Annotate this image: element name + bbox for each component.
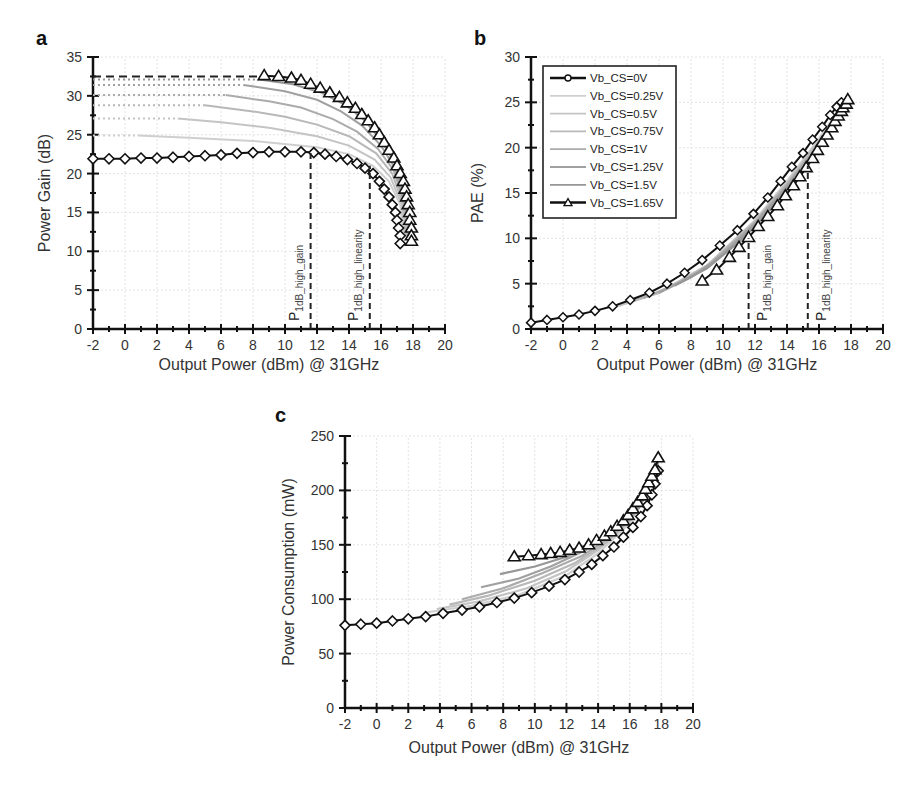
y-tick-label: 20	[504, 140, 520, 156]
y-tick-label: 25	[504, 94, 520, 110]
x-tick-label: 16	[811, 337, 827, 353]
x-tick-label: -2	[87, 337, 100, 353]
series-group	[340, 452, 664, 631]
y-axis-label: Power Consumption (mW)	[280, 478, 297, 666]
x-tick-label: 14	[590, 716, 606, 732]
power-consumption-chart: c-202468101214161820050100150200250Outpu…	[275, 404, 701, 756]
x-axis-label: Output Power (dBm) @ 31GHz	[597, 356, 818, 373]
diamond-marker	[280, 147, 290, 157]
y-tick-label: 35	[66, 49, 82, 65]
diamond-marker	[543, 315, 552, 324]
x-tick-label: 8	[687, 337, 695, 353]
triangle-marker	[842, 94, 854, 104]
y-tick-label: 10	[504, 230, 520, 246]
y-tick-label: 5	[74, 282, 82, 298]
x-tick-label: 6	[217, 337, 225, 353]
y-tick-label: 50	[318, 646, 334, 662]
diamond-marker	[544, 581, 554, 591]
x-tick-label: 4	[436, 716, 444, 732]
x-tick-label: 4	[623, 337, 631, 353]
legend-entry: Vb_CS=0.5V	[590, 108, 657, 120]
legend-entry: Vb_CS=1.5V	[590, 179, 657, 191]
legend-entry: Vb_CS=1.25V	[590, 161, 664, 173]
diamond-marker	[608, 302, 617, 311]
legend-entry: Vb_CS=0V	[590, 72, 648, 84]
y-tick-label: 15	[66, 204, 82, 220]
x-tick-label: -2	[525, 337, 538, 353]
y-tick-label: 150	[311, 537, 335, 553]
x-tick-label: 20	[437, 337, 453, 353]
x-tick-label: 10	[527, 716, 543, 732]
y-tick-label: 5	[512, 276, 520, 292]
diamond-marker	[395, 239, 405, 249]
x-tick-label: 16	[622, 716, 638, 732]
diamond-marker	[560, 575, 570, 585]
diamond-marker	[216, 150, 226, 160]
diamond-marker	[387, 616, 397, 626]
x-tick-label: 2	[153, 337, 161, 353]
x-tick-label: 12	[559, 716, 575, 732]
diamond-marker	[104, 154, 114, 164]
pae-chart: b-202468101214161820051015202530Output P…	[469, 27, 891, 373]
diamond-marker	[372, 618, 382, 628]
x-tick-label: 0	[121, 337, 129, 353]
x-tick-label: 12	[309, 337, 325, 353]
p1db-label: P1dB_high_linearity	[345, 229, 364, 321]
p1db-label: P1dB_high_gain	[754, 245, 773, 321]
diamond-marker	[591, 306, 600, 315]
x-tick-label: 20	[685, 716, 701, 732]
x-tick-label: 12	[747, 337, 763, 353]
legend-entry: Vb_CS=0.75V	[590, 125, 664, 137]
x-tick-label: 6	[468, 716, 476, 732]
x-axis-label: Output Power (dBm) @ 31GHz	[159, 356, 380, 373]
x-tick-label: 4	[185, 337, 193, 353]
y-tick-label: 0	[326, 700, 334, 716]
x-tick-label: 18	[654, 716, 670, 732]
diamond-marker	[356, 619, 366, 629]
legend-entry: Vb_CS=1.65V	[590, 197, 664, 209]
diamond-marker	[120, 154, 130, 164]
gridlines	[93, 57, 445, 329]
y-tick-label: 200	[311, 482, 335, 498]
x-tick-label: 10	[277, 337, 293, 353]
y-tick-label: 30	[504, 49, 520, 65]
diamond-marker	[559, 313, 568, 322]
circle-marker-icon	[565, 75, 571, 81]
y-tick-label: 0	[512, 321, 520, 337]
triangle-marker	[652, 452, 664, 462]
series-line	[659, 101, 846, 293]
x-tick-label: 14	[341, 337, 357, 353]
x-tick-label: 18	[843, 337, 859, 353]
diamond-marker	[232, 148, 242, 158]
gridlines	[345, 436, 693, 708]
legend-entry: Vb_CS=1V	[590, 143, 648, 155]
triangle-marker	[258, 70, 270, 80]
diamond-marker	[527, 318, 536, 327]
x-tick-label: 16	[373, 337, 389, 353]
y-tick-label: 100	[311, 591, 335, 607]
p1db-annotations: P1dB_high_gainP1dB_high_linearity	[286, 152, 370, 329]
p1db-label: P1dB_high_linearity	[813, 229, 832, 321]
y-tick-label: 15	[504, 185, 520, 201]
y-tick-label: 30	[66, 88, 82, 104]
x-tick-label: 2	[404, 716, 412, 732]
y-tick-label: 0	[74, 321, 82, 337]
x-tick-label: 2	[591, 337, 599, 353]
diamond-marker	[340, 620, 350, 630]
x-tick-label: 8	[499, 716, 507, 732]
figure-canvas: a-20246810121416182005101520253035Output…	[0, 0, 924, 796]
x-tick-label: 14	[779, 337, 795, 353]
power-gain-chart: a-20246810121416182005101520253035Output…	[36, 27, 453, 373]
diamond-marker	[264, 147, 274, 157]
y-tick-label: 250	[311, 428, 335, 444]
y-axis-label: Power Gain (dB)	[36, 134, 53, 252]
y-tick-label: 10	[66, 243, 82, 259]
diamond-marker	[136, 153, 146, 163]
x-tick-label: 10	[715, 337, 731, 353]
x-tick-label: 6	[655, 337, 663, 353]
x-tick-label: 20	[875, 337, 891, 353]
x-tick-label: 8	[249, 337, 257, 353]
diamond-marker	[403, 614, 413, 624]
diamond-marker	[168, 152, 178, 162]
panel-label: c	[275, 404, 286, 426]
